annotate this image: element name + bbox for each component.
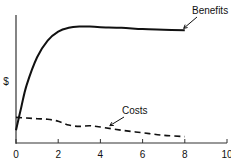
series-group: [16, 26, 185, 136]
x-tick-label: 0: [13, 149, 19, 160]
annotations: BenefitsCosts: [110, 5, 228, 126]
x-tick-label: 10: [221, 149, 231, 160]
annotation-arrow: [110, 117, 124, 126]
x-tick-label: 8: [182, 149, 188, 160]
x-tick-label: 4: [98, 149, 104, 160]
benefits-line: [16, 26, 185, 130]
costs-label: Costs: [122, 105, 148, 116]
y-axis-label: $: [3, 76, 9, 87]
axes: 0246810$: [3, 15, 231, 160]
x-tick-label: 6: [140, 149, 146, 160]
annotation-arrow: [184, 17, 197, 28]
x-tick-label: 2: [55, 149, 61, 160]
benefits-label: Benefits: [192, 5, 228, 16]
chart: 0246810$ BenefitsCosts: [0, 0, 231, 162]
costs-line: [16, 117, 185, 136]
